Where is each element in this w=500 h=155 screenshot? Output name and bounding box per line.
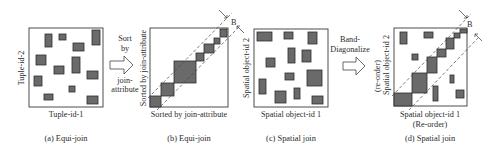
band-width-arrow-icon <box>475 34 482 41</box>
panel-c-caption: (c) Spatial join <box>266 134 317 143</box>
panel-a-y-label: Tuple-id-2 <box>17 51 26 86</box>
join-block <box>302 50 311 62</box>
join-block <box>214 38 220 44</box>
join-block <box>174 61 196 83</box>
join-block <box>161 83 174 96</box>
panel-spatial-join-original: Spatial object-id 1 Spatial object-id 2 … <box>242 29 328 143</box>
join-block <box>308 32 317 44</box>
join-block <box>266 58 275 67</box>
join-block <box>204 44 214 53</box>
join-block <box>73 43 84 51</box>
join-block <box>394 93 412 106</box>
join-block <box>294 88 300 99</box>
join-block <box>150 96 161 107</box>
join-block <box>285 73 294 80</box>
join-diagram-figure: Tuple-id-1 Tuple-id-2 (a) Equi-join Sort… <box>0 0 500 155</box>
join-block <box>460 29 467 33</box>
join-block <box>456 90 464 98</box>
panel-d-caption: (d) Spatial join <box>405 134 456 143</box>
band-width-arrow-icon <box>459 10 467 18</box>
band-upper-line <box>392 14 471 96</box>
join-block <box>59 34 66 40</box>
panel-equi-join-sorted: B Sorted by join-attribute Sorted by joi… <box>139 10 244 143</box>
join-block <box>307 70 322 86</box>
join-block <box>433 86 438 101</box>
join-block <box>87 96 98 104</box>
join-block <box>284 32 293 39</box>
join-block <box>446 38 454 49</box>
join-block <box>87 71 98 79</box>
panel-d-x-label: Spatial object-id 1 <box>400 110 460 119</box>
join-block <box>36 55 46 65</box>
panel-d-y-label-reorder: (re-order) <box>373 60 382 92</box>
join-block <box>275 91 286 103</box>
right-arrow-icon <box>343 57 365 75</box>
band-width-label: B <box>467 20 473 29</box>
panel-d-blocks <box>394 29 467 106</box>
band-width-label: B <box>231 18 237 27</box>
join-block <box>92 30 100 45</box>
band-lower-line <box>157 27 239 110</box>
panel-equi-join-unsorted: Tuple-id-1 Tuple-id-2 (a) Equi-join <box>17 28 103 143</box>
join-block <box>288 48 295 63</box>
join-block <box>437 49 446 57</box>
join-block <box>196 53 204 61</box>
join-block <box>34 76 42 86</box>
join-block <box>312 96 323 104</box>
join-block <box>400 32 407 44</box>
panel-d-x-label-reorder: (Re-order) <box>413 120 448 129</box>
sort-label-line-1: Sort <box>118 34 132 43</box>
join-block <box>69 86 75 92</box>
join-block <box>454 33 460 38</box>
panel-spatial-join-reordered: B Spatial object-id 1 (Re-order) Spatial… <box>373 10 482 143</box>
join-block <box>450 75 454 83</box>
band-diagonalize-transition: Band- Diagonalize <box>330 35 370 75</box>
panel-b-y-label: Sorted by join-attribute <box>139 29 148 106</box>
join-block <box>72 57 80 73</box>
sort-label-line-4: attribute <box>111 85 139 94</box>
band-upper-line <box>148 13 232 98</box>
join-block <box>259 79 266 94</box>
panel-c-blocks <box>257 32 323 104</box>
panel-b-blocks <box>150 29 227 107</box>
sort-label-line-2: by <box>121 44 130 53</box>
band-width-arrow-icon <box>237 26 244 33</box>
panel-a-caption: (a) Equi-join <box>44 134 88 143</box>
join-block <box>412 73 427 93</box>
join-block <box>220 29 227 37</box>
join-block <box>427 57 437 73</box>
panel-a-x-label: Tuple-id-1 <box>49 110 84 119</box>
band-width-arrow-icon <box>219 10 227 18</box>
right-arrow-icon <box>110 56 133 74</box>
sort-label-line-3: join- <box>116 76 133 85</box>
join-block <box>424 32 433 38</box>
panel-c-y-label: Spatial object-id 2 <box>242 38 251 98</box>
join-block <box>412 54 418 60</box>
sort-transition: Sort by join- attribute <box>110 34 139 94</box>
panel-b-x-label: Sorted by join-attribute <box>151 110 228 119</box>
join-block <box>257 32 272 41</box>
panel-d-y-label: Spatial object-id 2 <box>382 35 391 95</box>
panel-c-x-label: Spatial object-id 1 <box>261 110 321 119</box>
panel-a-blocks <box>34 30 100 104</box>
join-block <box>45 34 52 47</box>
band-diag-label-line-2: Diagonalize <box>330 45 370 54</box>
join-block <box>54 66 64 74</box>
join-block <box>44 94 53 100</box>
band-diag-label-line-1: Band- <box>340 35 360 44</box>
panel-b-caption: (b) Equi-join <box>167 134 211 143</box>
